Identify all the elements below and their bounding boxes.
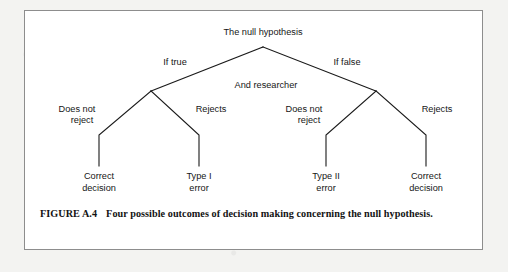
leaf-type-ii-error-line1: Type II (312, 171, 340, 181)
leaf-correct-decision-right-line1: Correct (411, 171, 442, 181)
node-right-does-not-reject-line2: reject (298, 115, 321, 125)
node-left-does-not-reject-line2: reject (71, 115, 94, 125)
edge-right-does-not-reject (326, 91, 376, 166)
leaf-type-ii-error-line2: error (316, 183, 335, 193)
edge-right-rejects (376, 91, 426, 166)
node-left-rejects: Rejects (196, 104, 227, 114)
figure-frame: The null hypothesis If true If false And… (24, 10, 483, 250)
node-right-does-not-reject-line1: Does not (286, 104, 323, 114)
edge-label-if-false: If false (333, 57, 360, 67)
figure-caption-text: Four possible outcomes of decision makin… (106, 208, 433, 219)
leaf-correct-decision-right-line2: decision (409, 183, 443, 193)
decision-tree-diagram: The null hypothesis If true If false And… (25, 11, 484, 207)
node-right-rejects: Rejects (422, 104, 453, 114)
figure-page: The null hypothesis If true If false And… (0, 0, 508, 272)
leaf-type-i-error-line2: error (189, 183, 208, 193)
figure-caption: FIGURE A.4Four possible outcomes of deci… (40, 207, 470, 221)
leaf-type-i-error-line1: Type I (186, 171, 211, 181)
edge-label-if-true: If true (163, 57, 187, 67)
leaf-correct-decision-left-line1: Correct (84, 171, 115, 181)
node-root-null-hypothesis: The null hypothesis (223, 27, 303, 37)
node-left-does-not-reject-line1: Does not (59, 104, 96, 114)
label-and-researcher: And researcher (235, 80, 298, 90)
figure-caption-label: FIGURE A.4 (40, 208, 97, 219)
edge-left-does-not-reject (99, 91, 151, 166)
edge-left-rejects (151, 91, 199, 166)
leaf-correct-decision-left-line2: decision (82, 183, 116, 193)
